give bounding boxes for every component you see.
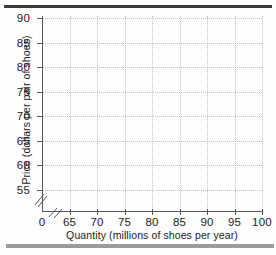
x-axis-tick — [207, 209, 208, 215]
x-axis-tick — [235, 209, 236, 215]
y-axis-tick — [37, 92, 43, 93]
y-axis-tick — [37, 67, 43, 68]
gridline-vertical — [262, 16, 263, 212]
y-axis-tick — [37, 43, 43, 44]
x-axis-break-icon — [48, 207, 64, 219]
y-axis-break-icon — [33, 193, 47, 209]
gridline-vertical — [235, 16, 236, 212]
x-axis-title: Quantity (millions of shoes per year) — [32, 229, 272, 241]
gridline-vertical — [70, 16, 71, 212]
gridline-vertical — [125, 16, 126, 212]
gridline-vertical — [97, 16, 98, 212]
gridline-vertical — [180, 16, 181, 212]
y-axis-tick — [37, 165, 43, 166]
x-axis-tick — [97, 209, 98, 215]
x-axis-tick — [125, 209, 126, 215]
gridline-vertical — [207, 16, 208, 212]
chart-figure: 5560657075808590 065707580859095100 Pric… — [0, 0, 276, 255]
x-axis-tick — [180, 209, 181, 215]
x-axis-tick — [70, 209, 71, 215]
x-axis-tick — [262, 209, 263, 215]
bottom-rule-divider — [6, 244, 274, 248]
gridline-vertical — [152, 16, 153, 212]
y-axis-tick — [37, 116, 43, 117]
y-axis-tick — [37, 141, 43, 142]
y-axis-tick — [37, 18, 43, 19]
plot-area — [42, 16, 262, 212]
x-axis-tick — [152, 209, 153, 215]
y-axis-tick — [37, 190, 43, 191]
x-axis-tick-label: 100 — [242, 216, 276, 228]
top-rule-divider — [4, 5, 272, 8]
y-axis-title: Price (dollars per pair of shoes) — [20, 5, 32, 215]
